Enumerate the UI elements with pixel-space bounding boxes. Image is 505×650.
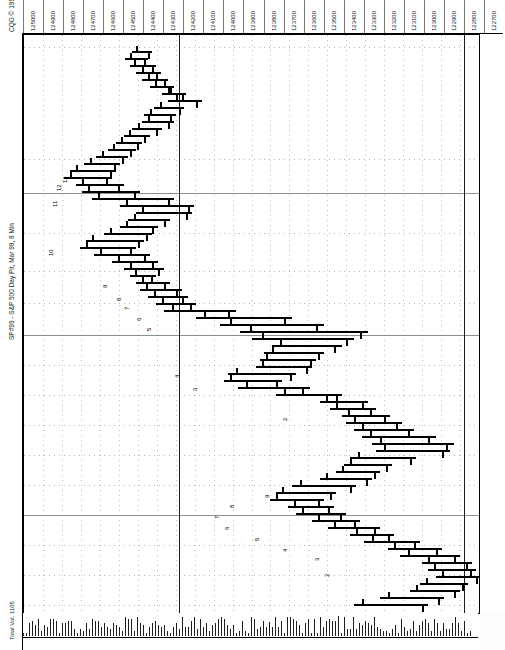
volume-bar — [311, 633, 312, 636]
swing-label: 6 — [136, 318, 142, 321]
volume-bar — [392, 629, 393, 636]
ohlc-close-tick — [306, 367, 308, 374]
volume-bar — [404, 627, 405, 636]
swing-label: 5 — [254, 538, 260, 541]
ohlc-open-tick — [362, 599, 364, 606]
ohlc-open-tick — [142, 207, 144, 214]
ohlc-open-tick — [266, 354, 268, 361]
volume-bar — [203, 627, 204, 636]
ohlc-open-tick — [160, 102, 162, 109]
volume-bar — [152, 623, 153, 636]
ohlc-open-tick — [130, 263, 132, 270]
time-axis[interactable] — [479, 34, 505, 612]
ohlc-close-tick — [148, 52, 150, 59]
volume-bar — [434, 619, 435, 636]
volume-bar — [278, 627, 279, 636]
ohlc-open-tick — [358, 452, 360, 459]
ohlc-bar — [164, 310, 236, 312]
grid-line-vertical — [62, 35, 63, 613]
volume-bar — [149, 627, 150, 636]
volume-bar — [134, 631, 135, 636]
volume-bar — [398, 633, 399, 636]
grid-line-vertical — [119, 35, 120, 613]
ohlc-open-tick — [272, 347, 274, 354]
swing-label: 7 — [124, 307, 130, 310]
ohlc-bar — [270, 499, 324, 501]
volume-bar — [218, 619, 219, 636]
ohlc-open-tick — [168, 88, 170, 95]
volume-bar — [119, 627, 120, 636]
ohlc-open-tick — [388, 592, 390, 599]
volume-bar — [425, 619, 426, 636]
swing-label: 4 — [174, 375, 180, 378]
volume-bar — [236, 633, 237, 636]
ohlc-close-tick — [386, 465, 388, 472]
ohlc-close-tick — [179, 108, 181, 115]
volume-bar — [290, 617, 291, 636]
price-axis[interactable]: 1250001249001248001247001246001245001244… — [22, 0, 503, 34]
ohlc-bar — [196, 317, 292, 319]
volume-bar — [227, 625, 228, 636]
volume-bar — [377, 627, 378, 636]
ohlc-close-tick — [334, 346, 336, 353]
ohlc-bar — [92, 198, 174, 200]
volume-bar — [269, 622, 270, 636]
ohlc-open-tick — [362, 424, 364, 431]
volume-bar — [107, 627, 108, 636]
volume-bar — [179, 629, 180, 636]
volume-bar — [329, 619, 330, 636]
ohlc-open-tick — [148, 116, 150, 123]
ohlc-close-tick — [146, 234, 148, 241]
volume-bar — [89, 629, 90, 636]
ohlc-close-tick — [346, 339, 348, 346]
plot-area[interactable]: 131211109876543298765432 — [23, 34, 480, 614]
volume-bar — [23, 633, 24, 636]
volume-bar — [395, 625, 396, 636]
price-tick-label: 123700 — [291, 11, 297, 31]
volume-bar — [422, 621, 423, 636]
ohlc-bar — [136, 212, 192, 214]
price-tick-label: 123000 — [431, 11, 437, 31]
ohlc-close-tick — [454, 591, 456, 598]
volume-bar — [164, 625, 165, 636]
ohlc-bar — [86, 240, 144, 242]
volume-bar — [326, 621, 327, 636]
price-tick — [143, 0, 144, 33]
ohlc-open-tick — [302, 508, 304, 515]
ohlc-open-tick — [110, 228, 112, 235]
volume-bar — [26, 633, 27, 636]
ohlc-close-tick — [360, 332, 362, 339]
grid-line-vertical — [43, 35, 44, 613]
ohlc-open-tick — [76, 165, 78, 172]
volume-bar — [74, 629, 75, 636]
volume-bar — [317, 633, 318, 636]
volume-bar — [362, 625, 363, 636]
ohlc-close-tick — [164, 220, 166, 227]
ohlc-open-tick — [326, 473, 328, 480]
grid-line-vertical — [100, 35, 101, 613]
price-tick — [324, 0, 325, 33]
swing-label: 6 — [224, 527, 230, 530]
price-tick-label: 123800 — [271, 11, 277, 31]
price-tick — [464, 0, 465, 33]
ohlc-open-tick — [142, 67, 144, 74]
ohlc-open-tick — [342, 466, 344, 473]
ohlc-bar — [354, 604, 428, 606]
ohlc-open-tick — [334, 522, 336, 529]
volume-bar — [257, 629, 258, 636]
ohlc-open-tick — [126, 221, 128, 228]
ohlc-open-tick — [135, 270, 137, 277]
volume-bar — [110, 629, 111, 636]
volume-bar — [200, 619, 201, 636]
ohlc-open-tick — [70, 172, 72, 179]
ohlc-open-tick — [126, 200, 128, 207]
ohlc-open-tick — [318, 515, 320, 522]
volume-strip — [23, 613, 478, 650]
volume-bar — [122, 631, 123, 636]
ohlc-open-tick — [384, 445, 386, 452]
ohlc-open-tick — [162, 298, 164, 305]
grid-line-vertical — [422, 35, 423, 613]
ohlc-open-tick — [408, 550, 410, 557]
volume-bar — [35, 625, 36, 636]
grid-line-horizontal — [24, 271, 479, 272]
